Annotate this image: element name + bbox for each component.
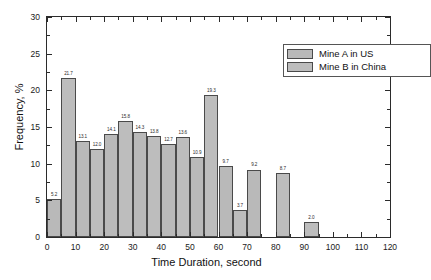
x-axis-tick (261, 234, 262, 237)
x-axis-tick (247, 17, 248, 22)
bar-value-label: 3.7 (237, 204, 243, 209)
bar (276, 173, 290, 237)
bar (190, 157, 204, 237)
bar (76, 141, 90, 237)
x-tick-label: 30 (128, 242, 137, 252)
y-axis-tick (387, 219, 390, 220)
x-tick-label: 90 (300, 242, 309, 252)
bar (118, 121, 132, 237)
y-axis-tick (385, 17, 390, 18)
x-axis-tick (104, 232, 105, 237)
x-tick-label: 0 (45, 242, 50, 252)
x-axis-tick (76, 232, 77, 237)
bar (233, 210, 247, 237)
y-axis-tick (387, 109, 390, 110)
x-axis-tick (118, 234, 119, 237)
x-axis-tick (290, 234, 291, 237)
y-axis-tick (385, 164, 390, 165)
bar-value-label: 9.2 (251, 163, 257, 168)
y-tick-label: 0 (14, 232, 40, 242)
x-tick-label: 110 (355, 242, 369, 252)
bar (61, 78, 75, 237)
bar-value-label: 9.7 (223, 160, 229, 165)
y-axis-tick (47, 200, 52, 201)
bar (176, 137, 190, 237)
bar-value-label: 14.3 (136, 126, 145, 131)
x-axis-tick (333, 17, 334, 22)
x-axis-tick (390, 232, 391, 237)
y-axis-tick (47, 17, 52, 18)
x-axis-tick (204, 17, 205, 20)
x-axis-tick (376, 234, 377, 237)
bar-value-label: 13.1 (78, 135, 87, 140)
bar-value-label: 5.2 (51, 193, 57, 198)
x-axis-tick (147, 234, 148, 237)
x-axis-tick (319, 17, 320, 20)
bar-value-label: 12.0 (93, 143, 102, 148)
bar-value-label: 21.7 (64, 72, 73, 77)
x-tick-label: 50 (185, 242, 194, 252)
x-axis-tick (333, 232, 334, 237)
legend-label: Mine B in China (319, 61, 386, 72)
bar-value-label: 12.7 (164, 138, 173, 143)
x-axis-tick (390, 17, 391, 22)
y-axis-tick (47, 237, 52, 238)
x-axis-tick (247, 232, 248, 237)
x-axis-tick (118, 17, 119, 20)
x-axis-tick (361, 232, 362, 237)
legend-swatch (287, 49, 313, 59)
x-axis-tick (176, 234, 177, 237)
x-axis-tick (376, 17, 377, 20)
x-axis-tick (304, 17, 305, 22)
y-axis-tick (47, 109, 50, 110)
y-tick-label: 5 (14, 195, 40, 205)
y-axis-tick (47, 164, 52, 165)
x-axis-tick (176, 17, 177, 20)
y-axis-tick (47, 90, 52, 91)
x-axis-tick (190, 17, 191, 22)
x-axis-tick (276, 232, 277, 237)
y-axis-tick (47, 127, 52, 128)
y-axis-tick (47, 72, 50, 73)
x-axis-tick (90, 234, 91, 237)
x-axis-tick (276, 17, 277, 22)
y-axis-tick (47, 145, 50, 146)
bar-value-label: 2.0 (308, 216, 314, 221)
x-axis-tick (347, 17, 348, 20)
x-axis-tick (219, 232, 220, 237)
x-axis-label: Time Duration, second (0, 256, 413, 268)
x-axis-tick (233, 234, 234, 237)
x-axis-tick (233, 17, 234, 20)
y-axis-tick (385, 237, 390, 238)
x-axis-tick (204, 234, 205, 237)
bar (147, 136, 161, 237)
x-axis-tick (190, 232, 191, 237)
bar-value-label: 13.6 (178, 131, 187, 136)
bar (204, 95, 218, 237)
y-axis-tick (385, 127, 390, 128)
x-tick-label: 80 (271, 242, 280, 252)
x-axis-tick (361, 17, 362, 22)
legend-entry: Mine B in China (287, 60, 427, 73)
bar-value-label: 13.8 (150, 130, 159, 135)
y-axis-tick (385, 90, 390, 91)
x-axis-tick (261, 17, 262, 20)
y-axis-tick (47, 219, 50, 220)
bar (304, 222, 318, 237)
bar (219, 166, 233, 237)
x-tick-label: 70 (242, 242, 251, 252)
x-axis-tick (76, 17, 77, 22)
legend-swatch (287, 62, 313, 72)
bar (90, 149, 104, 237)
y-axis-tick (387, 35, 390, 36)
bar (133, 132, 147, 237)
x-tick-label: 120 (383, 242, 397, 252)
bar (161, 144, 175, 237)
x-axis-tick (61, 234, 62, 237)
x-axis-tick (290, 17, 291, 20)
y-axis-label: Frequency, % (13, 42, 25, 192)
x-tick-label: 10 (71, 242, 80, 252)
y-tick-label: 30 (14, 12, 40, 22)
x-axis-tick (61, 17, 62, 20)
